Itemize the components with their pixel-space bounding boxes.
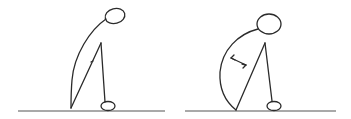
foot	[101, 102, 115, 111]
posture-diagram	[0, 0, 351, 119]
back-curve	[71, 19, 106, 108]
foot	[267, 102, 281, 111]
right-figure	[185, 14, 336, 111]
head	[103, 6, 126, 26]
front-line	[236, 43, 265, 110]
double-arrow-icon	[231, 55, 246, 68]
left-figure	[18, 6, 165, 111]
tick-mark	[91, 61, 93, 62]
front-line	[71, 43, 101, 108]
leg	[265, 43, 272, 101]
back-curve	[220, 29, 258, 110]
head	[257, 14, 281, 34]
leg	[101, 43, 105, 102]
